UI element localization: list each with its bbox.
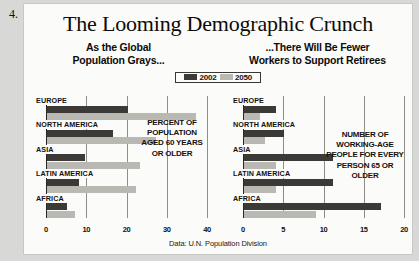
category-label: ASIA xyxy=(232,145,252,154)
category-label: AFRICA xyxy=(232,194,262,203)
subhead-left-line2: Population Grays... xyxy=(24,54,213,67)
bar-group: ASIA xyxy=(230,145,406,169)
subhead-right-line1: ...There Will Be Fewer xyxy=(223,41,412,54)
category-label: ASIA xyxy=(35,145,55,154)
x-tick-label: 20 xyxy=(400,225,408,234)
infographic-card: The Looming Demographic Crunch As the Gl… xyxy=(24,4,412,254)
chart-right-annotation: NUMBER OF WORKING-AGE PEOPLE FOR EVERY P… xyxy=(326,130,404,181)
x-tick-label: 0 xyxy=(241,225,245,234)
bar-2050 xyxy=(47,211,75,218)
screenshot-root: 4. The Looming Demographic Crunch As the… xyxy=(0,0,419,261)
chart-left: PERCENT OF POPULATION AGED 60 YEARS OR O… xyxy=(33,96,209,236)
bar-2002 xyxy=(244,130,284,137)
x-tick-label: 0 xyxy=(44,225,48,234)
category-label: EUROPE xyxy=(35,96,68,105)
page-title: The Looming Demographic Crunch xyxy=(24,12,412,35)
chart-left-annotation: PERCENT OF POPULATION AGED 60 YEARS OR O… xyxy=(141,118,203,159)
x-tick-label: 30 xyxy=(163,225,171,234)
bar-2002 xyxy=(47,106,128,113)
bar-2050 xyxy=(244,162,276,169)
x-tick-label: 10 xyxy=(82,225,90,234)
bar-2050 xyxy=(47,186,136,193)
x-tick-label: 10 xyxy=(320,225,328,234)
subhead-left-line1: As the Global xyxy=(24,41,213,54)
bar-group: AFRICA xyxy=(33,194,209,218)
gridline xyxy=(404,96,405,218)
gridline xyxy=(207,96,208,218)
subhead-left: As the Global Population Grays... xyxy=(24,41,219,67)
category-label: LATIN AMERICA xyxy=(232,169,291,178)
gridline xyxy=(167,96,168,218)
legend-swatch-2050 xyxy=(220,74,233,80)
chart-legend: 2002 2050 xyxy=(175,72,261,83)
bar-group: ASIA xyxy=(33,145,209,169)
bar-group: EUROPE xyxy=(33,96,209,120)
category-label: LATIN AMERICA xyxy=(35,169,94,178)
gridline xyxy=(86,96,87,218)
source-note: Data: U.N. Population Division xyxy=(24,239,412,248)
bar-2050 xyxy=(244,113,260,120)
x-tick-label: 20 xyxy=(123,225,131,234)
category-label: EUROPE xyxy=(232,96,265,105)
category-label: NORTH AMERICA xyxy=(232,120,296,129)
category-label: AFRICA xyxy=(35,194,65,203)
bar-2050 xyxy=(47,137,156,144)
bar-group: NORTH AMERICA xyxy=(230,120,406,144)
bar-2050 xyxy=(244,137,265,144)
gridline xyxy=(364,96,365,218)
legend-item-2002: 2002 xyxy=(184,73,217,82)
bar-2050 xyxy=(244,211,316,218)
bar-2002 xyxy=(244,203,381,210)
bar-2002 xyxy=(47,154,85,161)
x-tick-label: 15 xyxy=(360,225,368,234)
bar-2002 xyxy=(244,106,276,113)
bar-2002 xyxy=(47,130,113,137)
bar-2050 xyxy=(47,162,140,169)
legend-label-2050: 2050 xyxy=(235,73,252,82)
legend-item-2050: 2050 xyxy=(220,73,253,82)
bar-2002 xyxy=(47,203,67,210)
subhead-right: ...There Will Be Fewer Workers to Suppor… xyxy=(219,41,412,67)
chart-right: NUMBER OF WORKING-AGE PEOPLE FOR EVERY P… xyxy=(230,96,406,236)
subhead-row: As the Global Population Grays... ...The… xyxy=(24,41,412,67)
bar-2050 xyxy=(47,113,196,120)
category-label: NORTH AMERICA xyxy=(35,120,99,129)
subhead-right-line2: Workers to Support Retirees xyxy=(223,54,412,67)
chart-left-axis xyxy=(46,96,47,218)
bar-2002 xyxy=(244,179,333,186)
gridline xyxy=(127,96,128,218)
bar-2002 xyxy=(244,154,333,161)
chart-right-axis xyxy=(243,96,244,218)
gridline xyxy=(324,96,325,218)
gridline xyxy=(283,96,284,218)
question-number: 4. xyxy=(9,7,18,22)
bar-group: LATIN AMERICA xyxy=(33,169,209,193)
bar-group: EUROPE xyxy=(230,96,406,120)
bar-group: AFRICA xyxy=(230,194,406,218)
x-tick-label: 40 xyxy=(203,225,211,234)
legend-label-2002: 2002 xyxy=(200,73,217,82)
x-tick-label: 5 xyxy=(281,225,285,234)
bar-2002 xyxy=(47,179,79,186)
bar-group: LATIN AMERICA xyxy=(230,169,406,193)
bar-2050 xyxy=(244,186,276,193)
legend-swatch-2002 xyxy=(184,74,197,80)
bar-group: NORTH AMERICA xyxy=(33,120,209,144)
